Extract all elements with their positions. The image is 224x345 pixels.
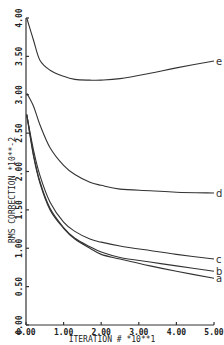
y-tick-label: 4.00 bbox=[15, 8, 24, 27]
y-tick-label: 3.00 bbox=[15, 85, 24, 104]
y-axis-title: RMS CORRECTION *10**-2 bbox=[8, 137, 17, 243]
curve-c bbox=[27, 115, 214, 259]
curve-label-d: d bbox=[216, 188, 222, 199]
x-tick-label: 5.00 bbox=[204, 328, 223, 337]
curve-label-e: e bbox=[216, 56, 222, 67]
y-axis-ticks: 0.000.501.001.502.002.503.003.504.00 bbox=[15, 8, 29, 334]
x-axis-title: ITERATION # *10**1 bbox=[69, 335, 156, 344]
curves: abcde bbox=[27, 18, 223, 284]
curve-label-c: c bbox=[216, 254, 222, 265]
line-chart: 0.001.002.003.004.005.00 0.000.501.001.5… bbox=[0, 0, 224, 345]
y-tick-label: 3.50 bbox=[15, 47, 24, 66]
axes bbox=[26, 18, 214, 325]
y-tick-label: 0.50 bbox=[15, 277, 24, 296]
curve-a bbox=[27, 115, 214, 278]
curve-d bbox=[27, 93, 214, 193]
curve-label-b: b bbox=[216, 266, 222, 277]
x-tick-label: 4.00 bbox=[167, 328, 186, 337]
curve-e bbox=[27, 18, 214, 80]
y-tick-label: 0.00 bbox=[15, 315, 24, 334]
